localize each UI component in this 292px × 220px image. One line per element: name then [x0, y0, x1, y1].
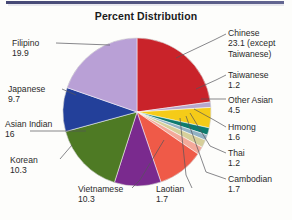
label-laotian-name: Laotian	[156, 184, 184, 194]
label-filipino: Filipino 19.9	[12, 38, 39, 59]
label-asian-indian-name: Asian Indian	[5, 119, 52, 129]
label-thai: Thai 1.2	[228, 148, 245, 169]
label-asian-indian: Asian Indian 16	[5, 119, 52, 140]
label-laotian-value: 1.7	[156, 194, 184, 204]
label-korean-value: 10.3	[10, 165, 38, 175]
label-vietnamese-value: 10.3	[78, 194, 123, 204]
label-asian-indian-value: 16	[5, 129, 52, 139]
label-thai-name: Thai	[228, 148, 245, 158]
label-hmong-name: Hmong	[228, 122, 256, 132]
leader-line-filipino	[56, 43, 110, 45]
label-filipino-value: 19.9	[12, 48, 39, 58]
label-thai-value: 1.2	[228, 158, 245, 168]
label-japanese-value: 9.7	[8, 94, 45, 104]
label-korean-name: Korean	[10, 155, 38, 165]
label-chinese-value: 23.1 (except	[228, 38, 275, 48]
label-hmong-value: 1.6	[228, 132, 256, 142]
label-laotian: Laotian 1.7	[156, 184, 184, 205]
figure-page: Percent Distribution	[0, 0, 292, 220]
leader-line-korean	[60, 145, 72, 159]
label-cambodian: Cambodian 1.7	[228, 174, 272, 195]
label-korean: Korean 10.3	[10, 155, 38, 176]
label-other-asian-name: Other Asian	[228, 95, 273, 105]
label-chinese-name: Chinese	[228, 28, 260, 38]
label-hmong: Hmong 1.6	[228, 122, 256, 143]
label-vietnamese: Vietnamese 10.3	[78, 184, 123, 205]
pie-slice-group	[63, 38, 211, 186]
pie-slice-chinese	[137, 38, 210, 112]
label-vietnamese-name: Vietnamese	[78, 184, 123, 194]
label-taiwanese-name: Taiwanese	[228, 70, 269, 80]
label-japanese: Japanese 9.7	[8, 84, 45, 105]
label-chinese: Chinese 23.1 (except Taiwanese)	[228, 28, 275, 59]
label-other-asian: Other Asian 4.5	[228, 95, 273, 116]
label-chinese-extra: Taiwanese)	[228, 49, 275, 59]
label-cambodian-value: 1.7	[228, 184, 272, 194]
leader-line-chinese	[176, 34, 226, 58]
label-taiwanese: Taiwanese 1.2	[228, 70, 269, 91]
label-filipino-name: Filipino	[12, 38, 39, 48]
label-japanese-name: Japanese	[8, 84, 45, 94]
label-cambodian-name: Cambodian	[228, 174, 272, 184]
label-taiwanese-value: 1.2	[228, 80, 269, 90]
label-other-asian-value: 4.5	[228, 105, 273, 115]
